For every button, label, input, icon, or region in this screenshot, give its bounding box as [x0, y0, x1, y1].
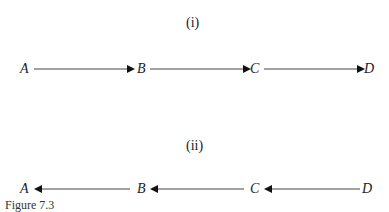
arrowhead-left-icon: [34, 185, 42, 193]
arrowhead-left-icon: [150, 185, 158, 193]
arrowhead-right-icon: [357, 65, 365, 73]
arrows-layer: [0, 0, 389, 212]
figure-caption: Figure 7.3: [5, 198, 54, 212]
arrowhead-left-icon: [264, 185, 272, 193]
arrowhead-right-icon: [243, 65, 251, 73]
arrowhead-right-icon: [127, 65, 135, 73]
